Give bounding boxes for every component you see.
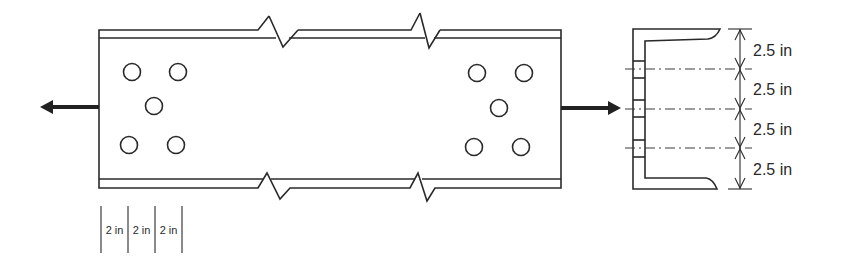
tension-force-right bbox=[561, 101, 621, 115]
pitch-label: 2 in bbox=[160, 224, 178, 236]
top-flange-edge bbox=[298, 13, 420, 30]
tension-force-left bbox=[40, 100, 99, 114]
bottom-flange-edge bbox=[99, 173, 561, 201]
bolt-hole-icon bbox=[124, 64, 141, 81]
pitch-label: 2 in bbox=[106, 224, 124, 236]
gage-label: 2.5 in bbox=[753, 42, 792, 59]
connection-diagram: 2 in2 in2 in 2.5 in2.5 in2.5 in2.5 in bbox=[0, 0, 844, 268]
bolt-hole-icon bbox=[516, 65, 533, 82]
section-view: 2.5 in2.5 in2.5 in2.5 in bbox=[625, 29, 792, 189]
top-flange-edge bbox=[440, 30, 561, 38]
gage-label: 2.5 in bbox=[753, 161, 792, 178]
break-line-icon bbox=[269, 16, 298, 47]
bolt-hole-icon bbox=[121, 137, 138, 154]
bolt-hole-icon bbox=[491, 100, 508, 117]
top-flange-edge bbox=[99, 16, 269, 38]
arrow-head-icon bbox=[40, 100, 53, 114]
bolt-hole-icon bbox=[469, 65, 486, 82]
bolt-hole-icon bbox=[466, 139, 483, 156]
bolt-hole-icon bbox=[170, 64, 187, 81]
gage-label: 2.5 in bbox=[753, 81, 792, 98]
break-line-icon bbox=[420, 13, 440, 48]
bolt-hole-icon bbox=[168, 137, 185, 154]
bolt-hole-icon bbox=[513, 139, 530, 156]
arrow-head-icon bbox=[608, 101, 621, 115]
bolt-hole-icon bbox=[146, 98, 163, 115]
pitch-label: 2 in bbox=[133, 224, 151, 236]
gage-label: 2.5 in bbox=[753, 121, 792, 138]
plan-view: 2 in2 in2 in bbox=[40, 13, 621, 253]
